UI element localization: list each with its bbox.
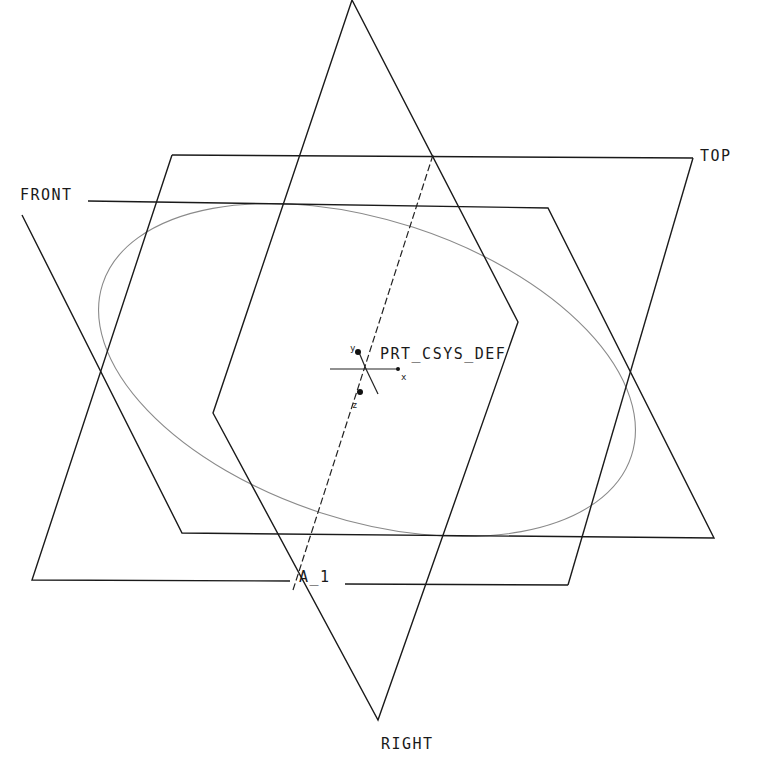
csys-z-marker <box>357 389 363 395</box>
csys-y-label: y <box>350 343 356 353</box>
csys-y-marker <box>355 349 361 355</box>
model-viewport[interactable]: y x z TOP FRONT RIGHT A_1 PRT_CSYS_DEF <box>0 0 758 779</box>
label-front[interactable]: FRONT <box>20 186 73 204</box>
csys-z-label: z <box>352 400 357 410</box>
label-top[interactable]: TOP <box>700 147 732 165</box>
label-axis-a1[interactable]: A_1 <box>299 568 331 586</box>
csys-x-marker <box>396 367 400 371</box>
csys-z-axis <box>366 369 378 394</box>
label-right[interactable]: RIGHT <box>381 735 434 753</box>
datum-plane-top[interactable] <box>32 155 693 585</box>
label-csys[interactable]: PRT_CSYS_DEF <box>380 345 506 363</box>
csys-x-label: x <box>401 372 407 382</box>
